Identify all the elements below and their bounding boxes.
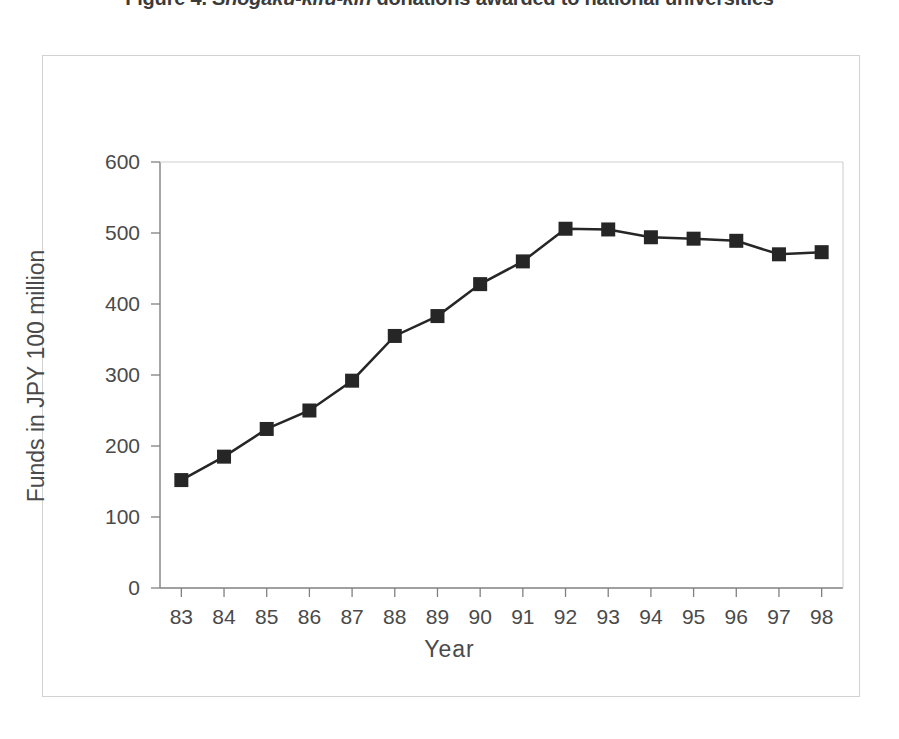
data-point-marker bbox=[174, 473, 188, 487]
y-tick-label: 100 bbox=[60, 505, 140, 529]
data-point-marker bbox=[260, 422, 274, 436]
x-tick-label: 84 bbox=[212, 605, 235, 629]
data-point-marker bbox=[772, 247, 786, 261]
data-point-marker bbox=[687, 232, 701, 246]
x-tick-label: 83 bbox=[170, 605, 193, 629]
y-tick-label: 500 bbox=[60, 221, 140, 245]
data-point-marker bbox=[559, 222, 573, 236]
x-tick-label: 85 bbox=[255, 605, 278, 629]
x-tick-label: 94 bbox=[639, 605, 662, 629]
y-tick-label: 600 bbox=[60, 150, 140, 174]
data-point-marker bbox=[644, 230, 658, 244]
x-tick-label: 95 bbox=[682, 605, 705, 629]
data-point-marker bbox=[302, 404, 316, 418]
x-tick-label: 87 bbox=[340, 605, 363, 629]
y-tick-label: 300 bbox=[60, 363, 140, 387]
data-point-marker bbox=[430, 309, 444, 323]
data-point-marker bbox=[815, 245, 829, 259]
x-tick-label: 93 bbox=[597, 605, 620, 629]
data-point-marker bbox=[516, 254, 530, 268]
data-point-marker bbox=[388, 329, 402, 343]
chart-axes bbox=[151, 162, 843, 597]
x-tick-label: 90 bbox=[468, 605, 491, 629]
x-tick-label: 86 bbox=[298, 605, 321, 629]
y-axis-title: Funds in JPY 100 million bbox=[23, 250, 50, 503]
x-tick-label: 98 bbox=[810, 605, 833, 629]
chart-series bbox=[174, 222, 828, 487]
x-tick-label: 91 bbox=[511, 605, 534, 629]
data-point-marker bbox=[729, 234, 743, 248]
data-point-marker bbox=[217, 450, 231, 464]
y-tick-label: 400 bbox=[60, 292, 140, 316]
x-axis-title: Year bbox=[0, 636, 899, 663]
x-tick-label: 89 bbox=[426, 605, 449, 629]
data-point-marker bbox=[345, 374, 359, 388]
x-tick-label: 96 bbox=[725, 605, 748, 629]
x-tick-label: 88 bbox=[383, 605, 406, 629]
x-tick-label: 92 bbox=[554, 605, 577, 629]
data-point-marker bbox=[473, 277, 487, 291]
y-tick-label: 0 bbox=[60, 576, 140, 600]
data-point-marker bbox=[601, 222, 615, 236]
y-tick-label: 200 bbox=[60, 434, 140, 458]
x-tick-label: 97 bbox=[767, 605, 790, 629]
